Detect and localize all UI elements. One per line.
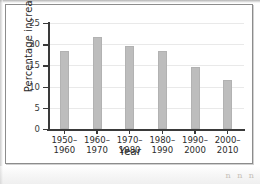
gridline [48,65,244,66]
bar [93,37,102,129]
bar-chart: Percentage increase 0510152025 1950–1960… [6,5,254,165]
y-tick-mark [43,44,48,45]
y-tick-mark [43,129,48,130]
x-tick-mark [194,130,195,134]
y-tick-label: 5 [20,103,40,113]
gridline [48,87,244,88]
bar [60,51,69,129]
x-tick-mark [227,130,228,134]
plot-area [48,23,244,129]
y-tick-mark [43,108,48,109]
gridline [48,23,244,24]
bar [158,51,167,129]
y-tick-label: 20 [20,39,40,49]
x-tick-mark [96,130,97,134]
x-tick-mark [129,130,130,134]
page-root: n n n Percentage increase 0510152025 195… [0,0,260,184]
y-axis-line [48,22,50,130]
y-tick-label: 10 [20,82,40,92]
x-axis-line [47,129,245,131]
x-tick-mark [162,130,163,134]
bar [125,46,134,129]
figure-card: Percentage increase 0510152025 1950–1960… [5,4,253,164]
bar [191,67,200,129]
scan-edge-left [0,0,3,184]
gridline [48,44,244,45]
y-tick-label: 15 [20,60,40,70]
y-tick-mark [43,87,48,88]
x-tick-label-line: 2000– [208,135,248,145]
x-tick-mark [64,130,65,134]
y-tick-mark [43,23,48,24]
bar [223,80,232,129]
y-tick-label: 0 [20,124,40,134]
gridline [48,108,244,109]
y-tick-mark [43,65,48,66]
y-tick-label: 25 [20,18,40,28]
x-axis-title: Year [6,145,254,157]
scan-edge-top [0,0,260,3]
scan-artifact-text: n n n [210,170,256,182]
